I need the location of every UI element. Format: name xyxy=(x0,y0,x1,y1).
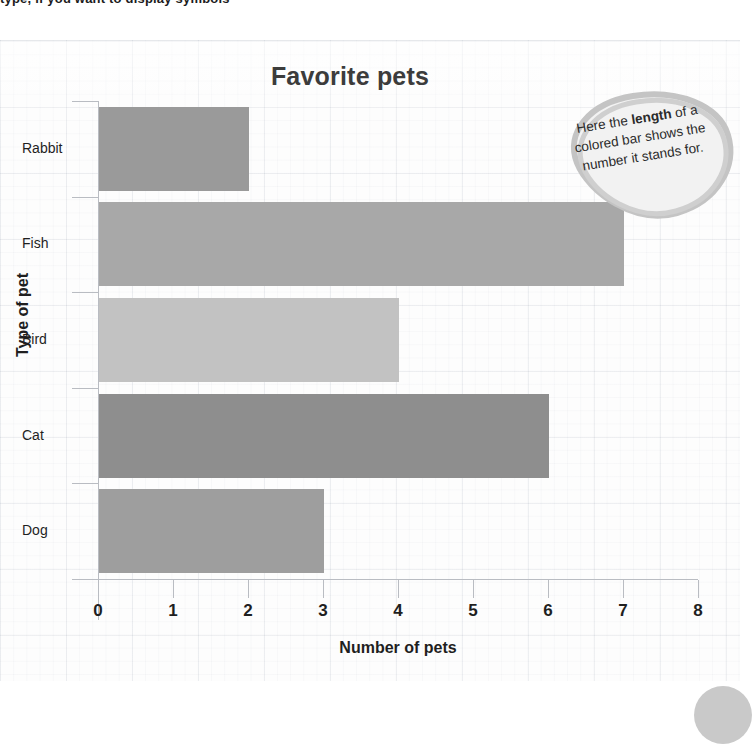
x-axis-tick xyxy=(698,580,699,598)
corner-circle-decoration xyxy=(694,686,752,744)
x-axis-tick-label: 8 xyxy=(683,601,713,621)
x-axis-tick-label: 2 xyxy=(233,601,263,621)
callout-bubble: Here the length of a colored bar shows t… xyxy=(543,85,740,227)
x-axis-tick xyxy=(473,580,474,598)
x-axis-tick xyxy=(548,580,549,598)
x-axis-tick xyxy=(323,580,324,598)
y-axis-label-dog: Dog xyxy=(0,522,88,538)
x-axis-tick xyxy=(398,580,399,598)
bar-dog[interactable] xyxy=(99,489,324,573)
y-axis-tick xyxy=(72,388,98,389)
bar-cat[interactable] xyxy=(99,394,549,478)
x-axis-tick xyxy=(248,580,249,598)
clipped-top-text: type, if you want to display symbols xyxy=(0,0,756,7)
y-axis-tick xyxy=(72,483,98,484)
x-axis-tick-label: 3 xyxy=(308,601,338,621)
x-axis-title: Number of pets xyxy=(98,639,698,657)
y-axis-label-cat: Cat xyxy=(0,427,88,443)
x-axis-tick xyxy=(173,580,174,598)
x-axis-tick-label: 7 xyxy=(608,601,638,621)
callout-bold-word: length xyxy=(630,106,672,127)
x-axis-tick-label: 5 xyxy=(458,601,488,621)
chart-panel: Favorite pets RabbitFishBirdCatDog 01234… xyxy=(0,40,740,681)
x-axis-tick xyxy=(98,580,99,598)
y-axis-tick xyxy=(72,197,98,198)
y-axis-label-rabbit: Rabbit xyxy=(0,140,88,156)
x-axis-line xyxy=(72,579,698,580)
bar-rabbit[interactable] xyxy=(99,107,249,191)
y-axis-tick xyxy=(72,101,98,102)
x-axis-tick-label: 4 xyxy=(383,601,413,621)
x-axis-tick-label: 1 xyxy=(158,601,188,621)
y-axis-title: Type of pet xyxy=(14,230,32,400)
x-axis-tick xyxy=(623,580,624,598)
bar-bird[interactable] xyxy=(99,298,399,382)
x-axis-tick-label: 0 xyxy=(83,601,113,621)
y-axis-tick xyxy=(72,579,98,580)
y-axis-tick xyxy=(72,292,98,293)
x-axis-tick-label: 6 xyxy=(533,601,563,621)
